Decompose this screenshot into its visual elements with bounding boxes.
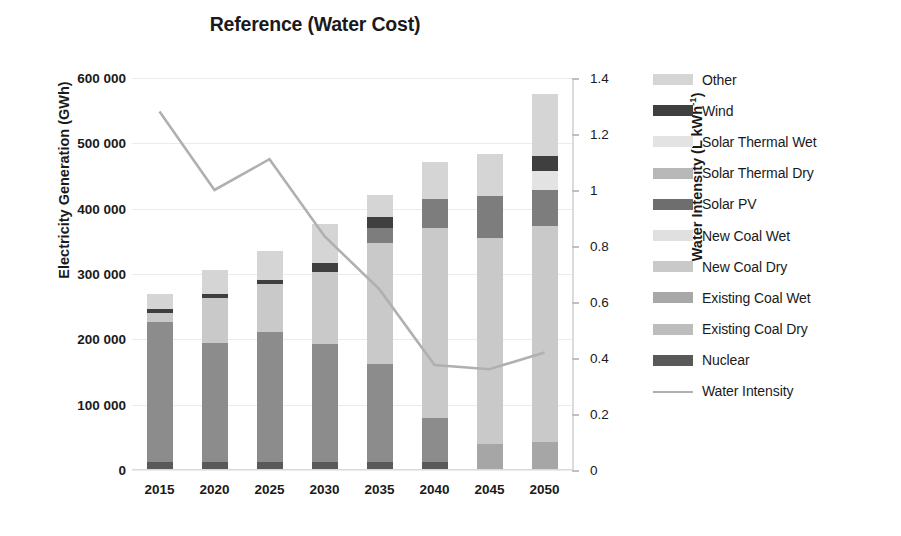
y-tick-mark-secondary <box>572 414 579 416</box>
x-tick-label: 2020 <box>187 482 242 497</box>
y-tick-label-primary: 300 000 <box>77 267 126 282</box>
legend-swatch-icon <box>653 199 693 210</box>
x-axis-ticks: 20152020202520302035204020452050 <box>132 482 572 508</box>
y-tick-label-primary: 0 <box>118 463 126 478</box>
chart-canvas: Reference (Water Cost) Electricity Gener… <box>0 0 901 536</box>
legend-item[interactable]: Water Intensity <box>653 376 901 407</box>
legend-item[interactable]: Solar Thermal Wet <box>653 126 901 157</box>
legend-item-label: Other <box>702 72 737 88</box>
legend-item-label: Solar Thermal Dry <box>702 165 814 181</box>
legend-item[interactable]: Existing Coal Dry <box>653 314 901 345</box>
y-tick-label-primary: 600 000 <box>77 71 126 86</box>
water-intensity-polyline <box>160 112 545 370</box>
y-tick-label-secondary: 0.2 <box>590 407 609 422</box>
legend-item[interactable]: Other <box>653 64 901 95</box>
legend-item-label: Existing Coal Wet <box>702 290 811 306</box>
y-axis-ticks-secondary: 00.20.40.60.811.21.4 <box>572 78 642 470</box>
y-tick-mark-secondary <box>572 246 579 248</box>
legend-item[interactable]: New Coal Dry <box>653 251 901 282</box>
legend-item-label: New Coal Wet <box>702 228 790 244</box>
y-tick-label-primary: 100 000 <box>77 397 126 412</box>
legend-swatch-icon <box>653 230 693 241</box>
x-axis-line <box>132 469 572 471</box>
legend-swatch-icon <box>653 136 693 147</box>
plot-area <box>132 78 572 470</box>
legend-item[interactable]: Existing Coal Wet <box>653 282 901 313</box>
y-tick-label-secondary: 1 <box>590 183 598 198</box>
legend-line-icon <box>653 391 693 393</box>
y-tick-label-secondary: 1.2 <box>590 127 609 142</box>
y-tick-label-primary: 500 000 <box>77 136 126 151</box>
legend-swatch-icon <box>653 355 693 366</box>
y-tick-mark-secondary <box>572 134 579 136</box>
y-tick-mark-secondary <box>572 358 579 360</box>
legend-item-label: New Coal Dry <box>702 259 787 275</box>
x-tick-label: 2040 <box>407 482 462 497</box>
y-tick-label-secondary: 0.4 <box>590 351 609 366</box>
legend-swatch-icon <box>653 105 693 116</box>
gridline <box>132 470 572 471</box>
water-intensity-line <box>132 78 572 470</box>
chart-title: Reference (Water Cost) <box>0 13 630 36</box>
legend-item[interactable]: Nuclear <box>653 345 901 376</box>
x-tick-label: 2030 <box>297 482 352 497</box>
legend-swatch-icon <box>653 74 693 85</box>
y-tick-label-secondary: 0.6 <box>590 295 609 310</box>
y-tick-mark-secondary <box>572 190 579 192</box>
x-tick-label: 2025 <box>242 482 297 497</box>
y-tick-label-primary: 200 000 <box>77 332 126 347</box>
y-tick-mark-secondary <box>572 78 579 80</box>
y-tick-mark-secondary <box>572 470 579 472</box>
legend-swatch-icon <box>653 261 693 272</box>
legend-item-label: Solar PV <box>702 196 756 212</box>
x-tick-label: 2045 <box>462 482 517 497</box>
legend-item-label: Wind <box>702 103 734 119</box>
legend-item-label: Water Intensity <box>702 383 793 399</box>
legend-swatch-icon <box>653 168 693 179</box>
x-tick-label: 2015 <box>132 482 187 497</box>
x-tick-label: 2035 <box>352 482 407 497</box>
legend-item-label: Existing Coal Dry <box>702 321 808 337</box>
legend-item[interactable]: Solar Thermal Dry <box>653 158 901 189</box>
y-axis-line-secondary <box>572 78 574 470</box>
legend-swatch-icon <box>653 324 693 335</box>
y-axis-ticks-primary: 0100 000200 000300 000400 000500 000600 … <box>0 78 126 470</box>
legend-item[interactable]: New Coal Wet <box>653 220 901 251</box>
y-tick-mark-secondary <box>572 302 579 304</box>
x-tick-label: 2050 <box>517 482 572 497</box>
y-tick-label-secondary: 0 <box>590 463 598 478</box>
legend-item-label: Solar Thermal Wet <box>702 134 817 150</box>
legend-item[interactable]: Wind <box>653 95 901 126</box>
y-tick-label-secondary: 1.4 <box>590 71 609 86</box>
legend: OtherWindSolar Thermal WetSolar Thermal … <box>653 64 901 407</box>
legend-swatch-icon <box>653 292 693 303</box>
y-tick-label-primary: 400 000 <box>77 201 126 216</box>
y-tick-label-secondary: 0.8 <box>590 239 609 254</box>
legend-item[interactable]: Solar PV <box>653 189 901 220</box>
legend-item-label: Nuclear <box>702 352 750 368</box>
